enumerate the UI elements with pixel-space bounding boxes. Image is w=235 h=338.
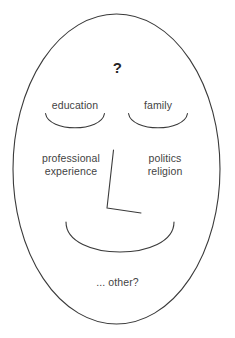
mouth-shape: [66, 222, 174, 252]
left-eye-shape: [46, 114, 105, 128]
label-other: ... other?: [0, 276, 235, 289]
face-diagram: ? education family professional experien…: [0, 0, 235, 338]
label-education: education: [34, 99, 116, 112]
question-mark-label: ?: [0, 58, 235, 77]
label-professional-experience: professional experience: [31, 152, 111, 179]
label-politics-religion: politics religion: [132, 152, 198, 179]
right-eye-shape: [129, 114, 188, 128]
label-family: family: [124, 99, 192, 112]
